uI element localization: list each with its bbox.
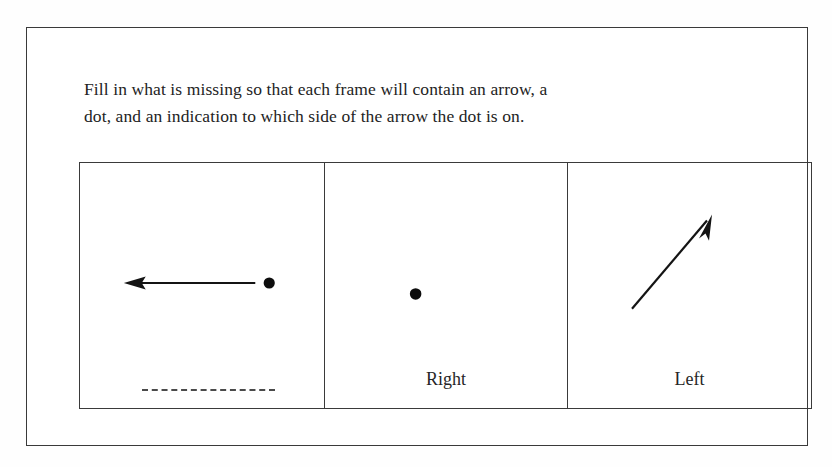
frames-container: Right Left	[79, 162, 812, 409]
arrow-shaft-diagonal-icon	[632, 221, 707, 309]
instruction-line-1: Fill in what is missing so that each fra…	[84, 76, 744, 103]
instruction-text: Fill in what is missing so that each fra…	[84, 76, 744, 130]
dot-icon	[410, 288, 422, 300]
frame-1[interactable]	[80, 163, 325, 408]
frame-2-label: Right	[325, 369, 567, 390]
frame-3-label: Left	[568, 369, 811, 390]
frame-2[interactable]: Right	[325, 163, 568, 408]
page-outer-border: Fill in what is missing so that each fra…	[26, 27, 808, 446]
dot-icon	[264, 277, 275, 288]
worksheet-page: Fill in what is missing so that each fra…	[0, 0, 832, 467]
frame-1-graphic	[80, 163, 324, 408]
frame-3[interactable]: Left	[568, 163, 811, 408]
instruction-line-2: dot, and an indication to which side of …	[84, 103, 744, 130]
answer-blank-line[interactable]	[142, 389, 275, 391]
